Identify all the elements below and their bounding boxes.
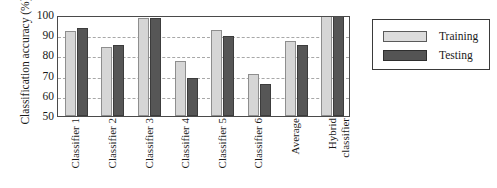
bar-training <box>285 41 296 116</box>
bar-group <box>321 17 344 116</box>
plot-area <box>57 16 350 117</box>
bar-testing <box>150 18 161 116</box>
legend-item: Training <box>383 29 478 43</box>
bar-training <box>65 31 76 116</box>
y-tick-label: 70 <box>28 71 54 83</box>
bar-group <box>211 17 234 116</box>
x-tick-label: Classifier 6 <box>253 118 264 168</box>
bar-group <box>138 17 161 116</box>
bar-training <box>211 30 222 116</box>
y-tick-label: 80 <box>28 51 54 63</box>
bar-training <box>321 16 332 116</box>
bar-group <box>65 17 88 116</box>
y-tick-label: 50 <box>28 111 54 123</box>
legend-swatch-testing <box>383 50 427 61</box>
y-tick-label: 60 <box>28 91 54 103</box>
bar-training <box>138 18 149 116</box>
bar-testing <box>187 78 198 116</box>
x-tick-label: Classifier 4 <box>180 118 191 168</box>
bar-training <box>101 47 112 116</box>
legend-swatch-training <box>383 31 427 42</box>
bar-testing <box>223 36 234 116</box>
bar-group <box>101 17 124 116</box>
y-axis-tick-labels: 5060708090100 <box>28 16 54 117</box>
x-tick-label: Classifier 3 <box>144 118 155 168</box>
x-tick-label: Average <box>290 118 301 154</box>
bar-group <box>175 17 198 116</box>
x-tick-label: Classifier 2 <box>107 118 118 168</box>
x-tick-label: Classifier 5 <box>217 118 228 168</box>
y-tick-label: 90 <box>28 30 54 42</box>
legend-item: Testing <box>383 48 473 62</box>
y-tick-label: 100 <box>28 10 54 22</box>
x-axis-tick-labels: Classifier 1Classifier 2Classifier 3Clas… <box>57 118 497 188</box>
bar-group <box>285 17 308 116</box>
x-tick-label: Classifier 1 <box>70 118 81 168</box>
bar-testing <box>297 45 308 116</box>
bar-testing <box>77 28 88 116</box>
bar-training <box>175 61 186 116</box>
legend-label: Testing <box>439 49 473 61</box>
x-tick-label: Hybrid <box>327 118 338 149</box>
bar-group <box>248 17 271 116</box>
x-tick-label: classifier <box>340 118 351 158</box>
legend-label: Training <box>439 30 478 42</box>
bar-training <box>248 74 259 116</box>
bar-series-container <box>58 17 349 116</box>
bar-testing <box>260 84 271 116</box>
legend: TrainingTesting <box>372 19 490 70</box>
bar-testing <box>113 45 124 116</box>
bar-testing <box>333 16 344 116</box>
bar-chart-figure: Classification accuracy (%) 506070809010… <box>0 0 497 188</box>
